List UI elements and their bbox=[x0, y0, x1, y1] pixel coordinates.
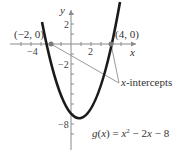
tick-label-2x: 2 bbox=[88, 46, 93, 57]
point-left-label: (−2, 0) bbox=[14, 28, 44, 41]
y-axis-label: y bbox=[59, 4, 65, 16]
tick-label-2y: 2 bbox=[64, 19, 69, 30]
tick-label-neg2: −2 bbox=[58, 59, 69, 70]
point-left-intercept bbox=[49, 42, 54, 47]
point-right-label: (4, 0) bbox=[115, 28, 139, 41]
tick-label-neg4: −4 bbox=[27, 46, 38, 57]
function-label: g(x) = x2 − 2x − 8 bbox=[92, 127, 170, 140]
tick-label-neg8: −8 bbox=[58, 119, 69, 130]
x-intercepts-annotation: x-intercepts bbox=[120, 76, 172, 88]
point-right-intercept bbox=[109, 42, 114, 47]
function-graph: y x −4 2 2 −2 −8 (−2, 0) (4, 0) x-interc… bbox=[0, 0, 186, 154]
x-axis-label: x bbox=[129, 46, 135, 58]
parabola-curve bbox=[42, 2, 120, 118]
